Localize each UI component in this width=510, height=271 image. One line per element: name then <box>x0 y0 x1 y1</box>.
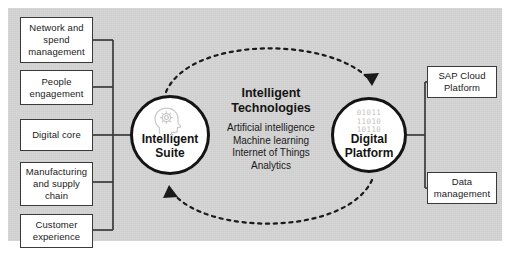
heading-line1: Intelligent <box>214 86 328 101</box>
right-box-label: Data management <box>428 176 496 200</box>
left-box-label: Network and spend management <box>21 22 92 58</box>
right-box-label: SAP Cloud Platform <box>428 70 496 94</box>
left-box-label: People engagement <box>21 76 92 100</box>
technology-item: Artificial intelligence <box>214 122 328 135</box>
binary-line-3: 10110 <box>334 126 404 135</box>
left-box-people-engagement[interactable]: People engagement <box>20 70 93 105</box>
digital-platform-label: Digital Platform <box>345 132 394 160</box>
left-box-digital-core[interactable]: Digital core <box>20 119 93 151</box>
technology-item: Analytics <box>214 160 328 173</box>
heading-line2: Technologies <box>214 101 328 116</box>
left-box-label: Digital core <box>29 129 84 141</box>
binary-decoration: 01011 11010 10110 <box>334 109 404 135</box>
head-gear-icon <box>153 106 187 136</box>
digital-platform-label-line2: Platform <box>345 146 394 160</box>
diagram-canvas: Network and spend management People enga… <box>0 0 510 271</box>
intelligent-suite-label: Intelligent Suite <box>142 132 199 160</box>
intelligent-technologies-list: Artificial intelligence Machine learning… <box>214 122 328 172</box>
technology-item: Internet of Things <box>214 147 328 160</box>
left-box-label: Customer experience <box>21 219 92 243</box>
intelligent-technologies-heading: Intelligent Technologies <box>214 86 328 115</box>
left-box-customer-experience[interactable]: Customer experience <box>20 214 93 248</box>
technology-item: Machine learning <box>214 135 328 148</box>
left-box-manufacturing-and-supply-chain[interactable]: Manufacturing and supply chain <box>20 162 93 206</box>
intelligent-suite-label-line2: Suite <box>142 146 199 160</box>
right-box-data-management[interactable]: Data management <box>427 172 497 204</box>
intelligent-technologies-block: Intelligent Technologies Artificial inte… <box>214 86 328 172</box>
right-box-sap-cloud-platform[interactable]: SAP Cloud Platform <box>427 66 497 98</box>
intelligent-suite-node[interactable]: Intelligent Suite <box>130 95 210 175</box>
digital-platform-node[interactable]: 01011 11010 10110 Digital Platform <box>331 97 407 173</box>
left-box-label: Manufacturing and supply chain <box>21 166 92 202</box>
left-box-network-and-spend-management[interactable]: Network and spend management <box>20 17 93 63</box>
